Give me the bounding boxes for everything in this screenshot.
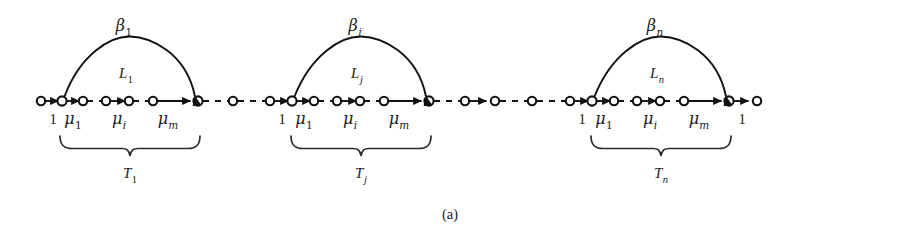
stage-label-mu-m: μm: [389, 109, 410, 131]
connector-j-to-n: [434, 97, 565, 105]
connector-1-to-j: [203, 97, 265, 105]
figure-caption: (a): [442, 206, 458, 223]
entry-rate-label: 1: [278, 111, 285, 127]
node-gap-2c: [528, 97, 536, 105]
node-sink: [753, 97, 761, 105]
node-gap-2a: [461, 97, 469, 105]
node-stage-1d: [680, 97, 688, 105]
entry-rate-label: 1: [578, 111, 585, 127]
stage-label-mu-1: μ1: [295, 109, 312, 131]
node-stage-1a: [310, 97, 318, 105]
node-stage-1c: [356, 97, 364, 105]
node-source: [266, 97, 274, 105]
inner-label-L: Lj: [350, 65, 363, 85]
arc-label-beta: β1: [115, 16, 132, 38]
stage-label-mu-m: μm: [689, 109, 710, 131]
group-j: βj Lj 1 μ1 μi μm Tj: [266, 16, 434, 185]
node-arc-start: [287, 96, 296, 105]
arc-label-beta: βj: [347, 16, 362, 38]
node-gap-1: [229, 97, 237, 105]
node-gap-2b: [491, 97, 499, 105]
stage-label-mu-1: μ1: [595, 109, 612, 131]
stage-label-mu-1: μ1: [64, 109, 81, 131]
node-stage-1b: [633, 97, 641, 105]
arc-label-beta: βn: [646, 16, 664, 38]
node-arc-end: [193, 96, 202, 105]
brace-label-T: Tj: [355, 165, 367, 185]
exit-rate-label: 1: [738, 111, 745, 127]
stage-label-mu-i: μi: [643, 109, 657, 131]
node-stage-1b: [333, 97, 341, 105]
node-source: [566, 97, 574, 105]
node-arc-end: [724, 96, 733, 105]
feedback-arc: [295, 36, 427, 96]
brace-label-T: Tn: [654, 165, 668, 185]
group-n: βn Ln 1 μ1 μi μm 1 Tn: [566, 16, 761, 185]
node-arc-start: [57, 96, 66, 105]
network-diagram: β1 L1 1 μ1 μi μm T1: [0, 0, 900, 233]
entry-rate-label: 1: [49, 111, 56, 127]
underbrace: [291, 136, 431, 156]
node-arc-end: [424, 96, 433, 105]
stage-label-mu-m: μm: [158, 109, 179, 131]
group-1: β1 L1 1 μ1 μi μm T1: [37, 16, 203, 185]
brace-label-T: T1: [123, 165, 137, 185]
figure-container: β1 L1 1 μ1 μi μm T1: [0, 0, 900, 233]
inner-label-L: Ln: [649, 65, 664, 85]
feedback-arc: [65, 36, 196, 96]
node-stage-1c: [656, 97, 664, 105]
stage-label-mu-i: μi: [112, 109, 126, 131]
node-stage-1d: [380, 97, 388, 105]
node-stage-1a: [79, 97, 87, 105]
node-stage-1d: [149, 97, 157, 105]
node-stage-1c: [125, 97, 133, 105]
inner-label-L: L1: [118, 65, 133, 85]
underbrace: [591, 136, 731, 156]
stage-label-mu-i: μi: [343, 109, 357, 131]
node-source: [37, 97, 45, 105]
node-stage-1b: [102, 97, 110, 105]
underbrace: [60, 136, 200, 156]
node-stage-1a: [610, 97, 618, 105]
feedback-arc: [595, 36, 727, 96]
node-arc-start: [587, 96, 596, 105]
